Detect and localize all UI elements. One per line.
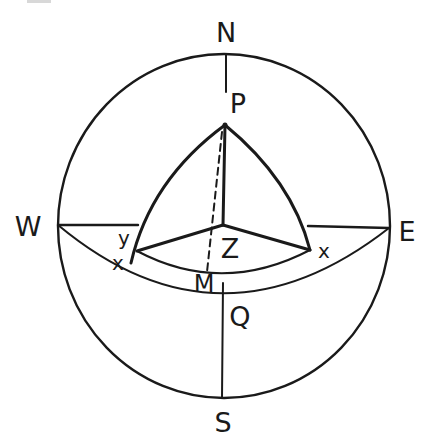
pole-zenith-line xyxy=(223,125,225,225)
label-zenith: Z xyxy=(221,233,240,264)
label-pole: P xyxy=(230,88,246,119)
hour-circle-right xyxy=(225,125,310,250)
pole-to-M-dashed xyxy=(207,132,222,272)
celestial-sphere-diagram: N S W E P Z M Q x x y xyxy=(0,0,430,440)
meridian-line-south xyxy=(222,283,223,398)
scan-artifact xyxy=(27,0,51,3)
label-meridian-point: M xyxy=(194,270,215,298)
label-star-right: x xyxy=(318,239,330,263)
label-south: S xyxy=(214,407,231,438)
label-arc-y: y xyxy=(118,226,130,250)
label-north: N xyxy=(216,17,236,48)
label-east: E xyxy=(398,216,415,247)
prime-vertical-east xyxy=(308,226,389,228)
label-star-left: x xyxy=(112,251,124,275)
label-west: W xyxy=(15,211,42,242)
pole-point xyxy=(223,123,228,128)
label-equator-point: Q xyxy=(229,301,250,332)
